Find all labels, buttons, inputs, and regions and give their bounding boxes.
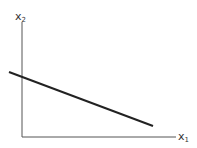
line-diagram: x2 x1 bbox=[0, 0, 197, 148]
x-axis-label: x1 bbox=[178, 130, 189, 144]
plotted-line bbox=[9, 72, 153, 126]
y-axis-label: x2 bbox=[15, 10, 26, 24]
